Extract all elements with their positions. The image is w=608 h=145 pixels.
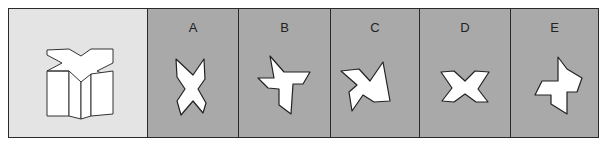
pinwheel-cross-icon xyxy=(239,9,331,139)
option-c[interactable]: C xyxy=(331,9,420,137)
skewed-x-icon xyxy=(331,9,420,139)
x-shape-horizontal-icon xyxy=(420,9,511,139)
option-d[interactable]: D xyxy=(420,9,511,137)
puzzle-frame: A B C D E xyxy=(8,8,599,138)
option-e[interactable]: E xyxy=(511,9,598,137)
option-a[interactable]: A xyxy=(148,9,239,137)
3d-x-prism-icon xyxy=(9,9,148,139)
pinwheel-cross-small-icon xyxy=(511,9,601,139)
option-b[interactable]: B xyxy=(239,9,331,137)
x-shape-vertical-icon xyxy=(148,9,239,139)
question-panel xyxy=(9,9,148,137)
